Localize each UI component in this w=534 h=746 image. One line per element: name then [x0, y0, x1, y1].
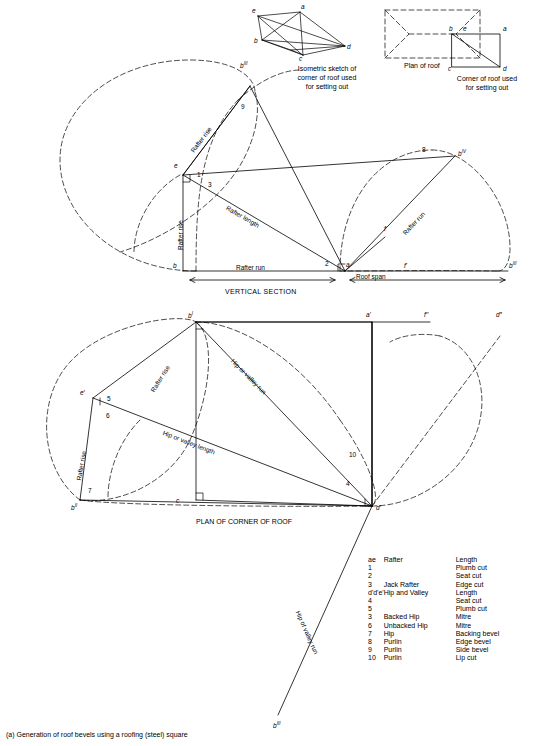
legend-value: Plumb cut	[456, 605, 500, 613]
label-8: 8	[422, 147, 426, 154]
label-1: 1	[197, 172, 201, 179]
legend-num: d'd'e'	[368, 589, 384, 597]
legend-name	[384, 597, 456, 605]
label-7: 7	[88, 488, 92, 495]
label-rafter-rise-vertical: Rafter rise	[178, 220, 185, 250]
legend-value: Edge cut	[456, 581, 500, 589]
legend-name: Jack Rafter	[384, 581, 456, 589]
label-e-prime: e′	[80, 390, 85, 397]
legend-value: Length	[456, 556, 500, 564]
legend-name: Hip and Valley	[384, 589, 456, 597]
label-corner-b: b	[449, 26, 453, 33]
legend-num: 8	[368, 638, 384, 646]
label-4: 4	[346, 481, 350, 488]
legend-name: Hip	[384, 630, 456, 638]
table-row: 3Backed HipMitre	[368, 613, 499, 621]
label-iso-d: d	[347, 44, 351, 51]
label-b-III-top-sup: III	[244, 61, 248, 66]
label-b-II: bII	[71, 504, 77, 512]
label-b-II-sup: II	[75, 503, 78, 508]
label-6: 6	[106, 413, 110, 420]
legend-name: Backed Hip	[384, 613, 456, 621]
legend-name	[384, 605, 456, 613]
label-b-III-bottom-sup: III	[277, 721, 281, 726]
label-iso-e: e	[252, 8, 256, 15]
label-3: 3	[208, 182, 212, 189]
label-b-upper: b	[173, 263, 177, 270]
vertical-section	[60, 60, 510, 283]
label-b-IV-sup: IV	[462, 149, 466, 154]
plan-of-corner-caption: PLAN OF CORNER OF ROOF	[196, 518, 292, 525]
label-f: f	[384, 226, 386, 233]
legend-num: 9	[368, 646, 384, 654]
label-a-upper: a	[346, 262, 350, 269]
legend-name: Unbacked Hip	[384, 622, 456, 630]
label-corner-c: c	[448, 66, 451, 73]
legend-name	[384, 564, 456, 572]
legend-value: Lip cut	[456, 654, 500, 662]
bevels-legend-table: aeRafterLength 1Plumb cut 2Seat cut 3Jac…	[368, 556, 499, 662]
table-row: 1Plumb cut	[368, 564, 499, 572]
label-d-double-prime: d″	[496, 312, 502, 319]
corner-caption-line2: for setting out	[440, 83, 534, 92]
table-row: 2Seat cut	[368, 572, 499, 580]
vertical-section-caption: VERTICAL SECTION	[225, 288, 297, 295]
label-corner-a: a	[503, 26, 507, 33]
table-row: 4Seat cut	[368, 597, 499, 605]
corner-of-roof	[452, 34, 500, 67]
label-iso-b: b	[254, 38, 258, 45]
legend-value: Length	[456, 589, 500, 597]
legend-name: Purlin	[384, 646, 456, 654]
isometric-caption-line1: Isometric sketch of	[277, 64, 377, 73]
label-a-prime: a'	[366, 312, 371, 319]
isometric-caption-line3: for setting out	[277, 82, 377, 91]
label-b-IV: bIV	[458, 150, 466, 158]
legend-value: Mitre	[456, 613, 500, 621]
legend-num: 1	[368, 564, 384, 572]
legend-value: Backing bevel	[456, 630, 500, 638]
table-row: 6Unbacked HipMitre	[368, 622, 499, 630]
label-b-I: bI	[188, 312, 193, 320]
legend-name: Purlin	[384, 654, 456, 662]
legend-num: 5	[368, 605, 384, 613]
label-b-III-right: bIII	[509, 262, 516, 270]
corner-caption-line1: Corner of roof used	[440, 74, 534, 83]
bevels-legend-body: aeRafterLength 1Plumb cut 2Seat cut 3Jac…	[368, 556, 499, 662]
table-row: 7HipBacking bevel	[368, 630, 499, 638]
legend-value: Mitre	[456, 622, 500, 630]
label-iso-c: c	[299, 56, 302, 63]
label-roof-span: Roof span	[356, 274, 386, 281]
legend-name: Purlin	[384, 638, 456, 646]
table-row: 10PurlinLip cut	[368, 654, 499, 662]
legend-value: Side bevel	[456, 646, 500, 654]
table-row: 8PurlinEdge bevel	[368, 638, 499, 646]
label-5: 5	[107, 396, 111, 403]
label-corner-e: e	[463, 26, 467, 33]
legend-num: 2	[368, 572, 384, 580]
plan-of-roof-caption: Plan of roof	[404, 62, 440, 69]
legend-num: 3	[368, 613, 384, 621]
label-rafter-run-bottom: Rafter run	[236, 265, 265, 272]
legend-num: 10	[368, 654, 384, 662]
label-f-prime: f'	[404, 263, 407, 270]
label-2: 2	[325, 261, 329, 268]
label-corner-d: d	[503, 66, 507, 73]
legend-name	[384, 572, 456, 580]
legend-num: 6	[368, 622, 384, 630]
legend-num: 4	[368, 597, 384, 605]
figure-root: e a b c d Isometric sketch of corner of …	[0, 0, 534, 746]
table-row: 5Plumb cut	[368, 605, 499, 613]
label-e-upper: e	[174, 163, 178, 170]
label-b-III-right-sup: III	[513, 261, 517, 266]
table-row: d'd'e'Hip and ValleyLength	[368, 589, 499, 597]
label-b-III-bottom: bIII	[273, 722, 280, 730]
legend-num: 7	[368, 630, 384, 638]
isometric-caption: Isometric sketch of corner of roof used …	[277, 64, 377, 91]
legend-value: Edge bevel	[456, 638, 500, 646]
label-f-double-prime: f′′	[424, 312, 428, 319]
label-d-prime: d′	[376, 505, 381, 512]
label-b-III-top: bIII	[240, 62, 247, 70]
bevels-legend: aeRafterLength 1Plumb cut 2Seat cut 3Jac…	[368, 556, 499, 662]
legend-num: 3	[368, 581, 384, 589]
legend-name: Rafter	[384, 556, 456, 564]
